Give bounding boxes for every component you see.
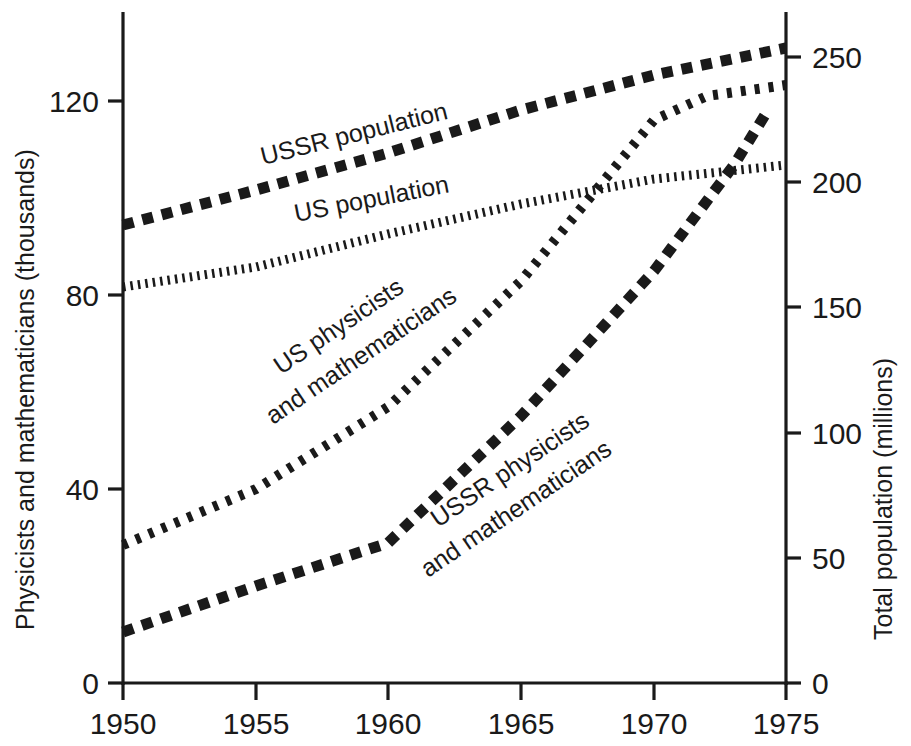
right-tick-label-250: 250 [812, 41, 862, 74]
right-tick-label-100: 100 [812, 417, 862, 450]
left-tick-label-120: 120 [49, 85, 99, 118]
left-tick-label-0: 0 [82, 667, 99, 700]
left-axis-title: Physicists and mathematicians (thousands… [11, 149, 39, 630]
x-tick-label-1965: 1965 [488, 707, 555, 740]
axis-group [123, 12, 788, 685]
x-tick-label-1975: 1975 [753, 707, 820, 740]
right-tick-label-200: 200 [812, 166, 862, 199]
chart-canvas: 0 40 80 120 0 50 100 150 200 250 [0, 0, 911, 746]
series-labels: USSR population US population US physici… [257, 96, 616, 582]
right-tick-label-0: 0 [812, 667, 829, 700]
right-tick-label-50: 50 [812, 542, 845, 575]
x-tick-label-1960: 1960 [355, 707, 422, 740]
physicists-population-chart: 0 40 80 120 0 50 100 150 200 250 [0, 0, 911, 746]
x-tick-label-1970: 1970 [621, 707, 688, 740]
x-axis-ticks: 1950 1955 1960 1965 1970 1975 [90, 683, 820, 740]
series-line-us-population [123, 165, 786, 287]
series-line-us-physicists [123, 85, 786, 545]
right-tick-label-150: 150 [812, 291, 862, 324]
left-axis-ticks: 0 40 80 120 [49, 85, 123, 700]
series-line-ussr-population [123, 48, 786, 225]
x-tick-label-1950: 1950 [90, 707, 157, 740]
left-tick-label-80: 80 [66, 279, 99, 312]
right-axis-title: Total population (millions) [869, 358, 897, 640]
left-tick-label-40: 40 [66, 473, 99, 506]
right-axis-ticks: 0 50 100 150 200 250 [786, 41, 862, 700]
series-label-us-population: US population [292, 169, 452, 226]
x-tick-label-1955: 1955 [223, 707, 290, 740]
